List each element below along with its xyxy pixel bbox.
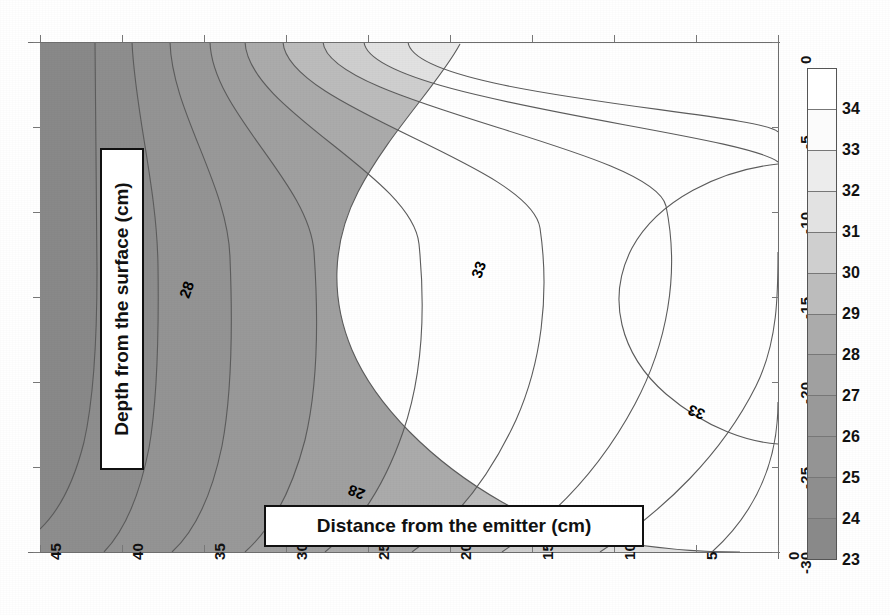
colorbar-band-25 — [808, 437, 836, 478]
colorbar-band-32 — [808, 151, 836, 192]
y-tick-left--25 — [33, 467, 40, 468]
x-tick-0 — [778, 545, 779, 552]
x-tick-45 — [40, 545, 41, 552]
x-tick-top-25 — [368, 35, 369, 42]
x-tick-top-20 — [450, 35, 451, 42]
colorbar-label-25: 25 — [842, 469, 860, 487]
x-tick-top-10 — [614, 35, 615, 42]
colorbar-band-23 — [808, 519, 836, 559]
colorbar-label-26: 26 — [842, 428, 860, 446]
axis-top — [28, 42, 780, 43]
x-tick-5 — [696, 545, 697, 552]
colorbar-label-28: 28 — [842, 346, 860, 364]
y-tick--15 — [772, 297, 779, 298]
colorbar-band-30 — [808, 233, 836, 274]
colorbar-label-30: 30 — [842, 264, 860, 282]
x-tick-top-35 — [204, 35, 205, 42]
x-tick-top-40 — [122, 35, 123, 42]
colorbar-band-24 — [808, 478, 836, 519]
colorbar-label-34: 34 — [842, 100, 860, 118]
y-axis-title: Depth from the surface (cm) — [100, 148, 144, 470]
contour-plot-area — [40, 42, 778, 552]
x-tick-35 — [204, 545, 205, 552]
x-tick-label-35: 35 — [211, 543, 228, 560]
x-tick-label-40: 40 — [129, 543, 146, 560]
colorbar-label-31: 31 — [842, 223, 860, 241]
colorbar-label-27: 27 — [842, 387, 860, 405]
y-tick-left--20 — [33, 382, 40, 383]
colorbar-band-33 — [808, 110, 836, 151]
x-axis-title: Distance from the emitter (cm) — [264, 505, 644, 547]
y-tick-left-0 — [33, 42, 40, 43]
colorbar-band-26 — [808, 396, 836, 437]
y-tick--20 — [772, 382, 779, 383]
y-tick-left--5 — [33, 127, 40, 128]
x-tick-top-0 — [778, 35, 779, 42]
y-tick-0 — [772, 42, 779, 43]
colorbar-band-27 — [808, 355, 836, 396]
colorbar-band-31 — [808, 192, 836, 233]
y-tick-left--30 — [33, 552, 40, 553]
x-tick-top-15 — [532, 35, 533, 42]
y-tick--30 — [772, 552, 779, 553]
colorbar-band-28 — [808, 315, 836, 356]
y-tick--10 — [772, 212, 779, 213]
y-tick-label-0: 0 — [797, 55, 814, 64]
colorbar-label-24: 24 — [842, 510, 860, 528]
x-tick-label-45: 45 — [47, 543, 64, 560]
x-tick-40 — [122, 545, 123, 552]
colorbar-label-32: 32 — [842, 182, 860, 200]
colorbar — [807, 68, 837, 560]
x-tick-top-45 — [40, 35, 41, 42]
axis-right — [778, 42, 779, 559]
colorbar-band-34 — [808, 69, 836, 110]
colorbar-label-33: 33 — [842, 141, 860, 159]
y-tick-left--15 — [33, 297, 40, 298]
colorbar-label-23: 23 — [842, 551, 860, 569]
contour-bands — [40, 42, 778, 552]
colorbar-band-29 — [808, 274, 836, 315]
x-tick-top-30 — [286, 35, 287, 42]
x-axis-title-text: Distance from the emitter (cm) — [317, 515, 592, 537]
y-tick--25 — [772, 467, 779, 468]
y-tick-left--10 — [33, 212, 40, 213]
y-tick--5 — [772, 127, 779, 128]
x-tick-top-5 — [696, 35, 697, 42]
colorbar-label-29: 29 — [842, 305, 860, 323]
x-tick-label-5: 5 — [703, 551, 720, 560]
y-axis-title-text: Depth from the surface (cm) — [111, 182, 133, 435]
contour-figure: 454035302520151050 0-5-10-15-20-25-30 De… — [0, 0, 890, 615]
